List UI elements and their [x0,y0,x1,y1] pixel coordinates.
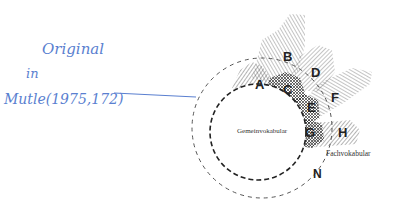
annotation-line-original: Original [42,40,104,58]
label-c: C [283,82,293,97]
label-g: G [305,125,315,140]
annotation-underline [114,93,196,97]
annotation-line-source: Mutle(1975,172) [3,91,123,107]
annotation-line-in: in [26,66,39,81]
label-h: H [338,125,347,140]
label-n: N [313,167,322,181]
fachvokabular-label: Fachvokabular [326,149,371,158]
label-f: F [331,90,339,105]
label-b: B [283,49,292,64]
label-d: D [311,65,320,80]
vocabulary-diagram: Original in Mutle(1975,172) Gemeinvo [0,0,394,210]
label-e: E [307,100,316,115]
label-a: A [255,77,265,92]
diagram-canvas: Original in Mutle(1975,172) Gemeinvo [0,0,394,210]
handwritten-annotation: Original in Mutle(1975,172) [3,40,196,107]
inner-circle-label: Gemeinvokabular [237,127,288,135]
